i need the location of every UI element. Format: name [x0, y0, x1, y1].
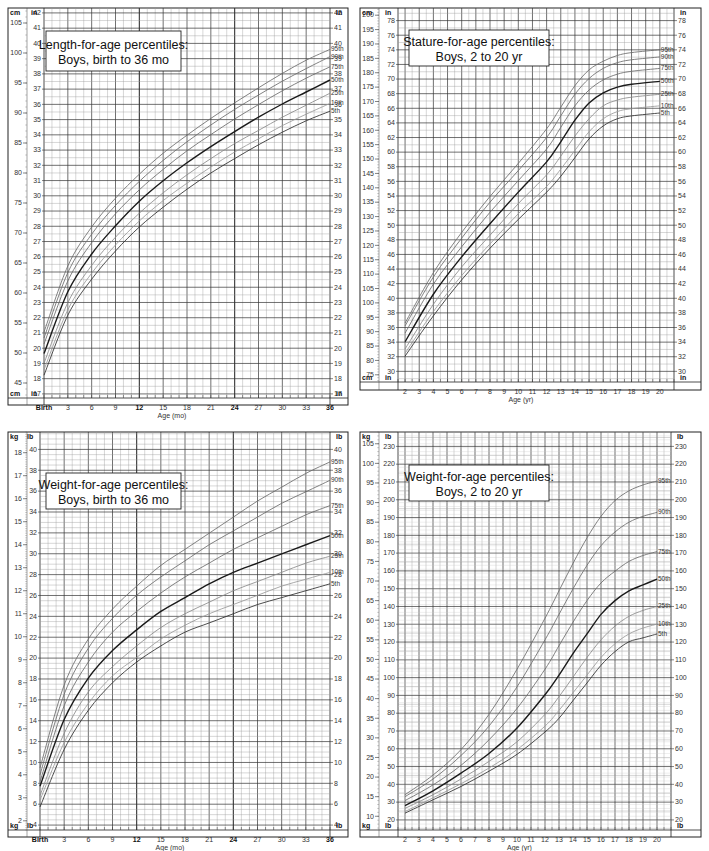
inner-tick-label: 60	[387, 745, 395, 752]
right-tick-label: 160	[675, 567, 687, 574]
left-tick-label: 16	[14, 495, 22, 502]
inner-tick-label: 78	[387, 17, 395, 24]
inner-tick-label: 150	[383, 585, 395, 592]
left-tick-label: 105	[10, 19, 22, 26]
inner-tick-label: 8	[33, 780, 37, 787]
right-tick-label: 32	[678, 353, 686, 360]
right-tick-label: 72	[678, 61, 686, 68]
left-tick-label: 195	[362, 26, 374, 33]
inner-tick-label: 76	[387, 32, 395, 39]
x-tick-label: 12	[543, 388, 551, 395]
inner-tick-label: 90	[387, 692, 395, 699]
curve-label-25th: 25th	[658, 602, 671, 609]
inner-tick-label: 39	[33, 55, 41, 62]
inner-tick-label: 34	[29, 508, 37, 515]
inner-tick-label: 20	[29, 654, 37, 661]
x-tick-label: 10	[514, 388, 522, 395]
right-tick-label: 28	[334, 223, 342, 230]
right-tick-label: 23	[334, 299, 342, 306]
inner-unit-label: in	[385, 9, 391, 16]
x-tick-label: 12	[541, 836, 549, 843]
x-tick-label: 21	[205, 836, 213, 843]
left-tick-label: 60	[14, 289, 22, 296]
left-tick-label: 10	[14, 633, 22, 640]
x-tick-label: 27	[254, 836, 262, 843]
chart-title-line2: Boys, birth to 36 mo	[58, 493, 169, 507]
right-unit-label: lb	[677, 433, 683, 440]
left-unit-label-bottom: kg	[362, 822, 370, 830]
x-tick-label: 11	[529, 388, 536, 395]
inner-tick-label: 200	[383, 496, 395, 503]
left-tick-label: 5	[18, 748, 22, 755]
right-tick-label: 50	[675, 763, 683, 770]
left-tick-label: 100	[362, 299, 374, 306]
right-tick-label: 66	[678, 105, 686, 112]
right-tick-label: 190	[675, 514, 687, 521]
right-tick-label: 20	[334, 654, 342, 661]
right-tick-label: 120	[675, 638, 687, 645]
x-tick-label: 18	[181, 836, 189, 843]
inner-tick-label: 70	[387, 75, 395, 82]
inner-tick-label: 12	[29, 738, 37, 745]
x-tick-label: 18	[183, 404, 191, 411]
right-tick-label: 26	[334, 253, 342, 260]
right-tick-label: 230	[675, 443, 687, 450]
right-unit-label: in	[680, 9, 686, 16]
inner-tick-label: 46	[387, 251, 395, 258]
left-tick-label: 75	[14, 199, 22, 206]
curve-label-75th: 75th	[658, 548, 671, 555]
right-tick-label: 14	[334, 717, 342, 724]
x-tick-label: 18	[628, 388, 636, 395]
right-tick-label: 25	[334, 268, 342, 275]
x-tick-label: 33	[302, 836, 310, 843]
left-unit-label-bottom: cm	[362, 374, 372, 381]
right-tick-label: 33	[334, 146, 342, 153]
right-tick-label: 36	[678, 324, 686, 331]
left-tick-label: 18	[14, 449, 22, 456]
left-tick-label: 125	[362, 227, 374, 234]
inner-tick-label: 33	[33, 146, 41, 153]
right-unit-label: in	[336, 9, 342, 16]
inner-tick-label: 50	[387, 222, 395, 229]
x-tick-label: 3	[62, 836, 66, 843]
inner-tick-label: 52	[387, 207, 395, 214]
curve-label-5th: 5th	[331, 580, 340, 587]
right-tick-label: 220	[675, 460, 687, 467]
left-tick-label: 100	[362, 460, 374, 467]
inner-tick-label: 20	[33, 345, 41, 352]
right-tick-label: 27	[334, 238, 342, 245]
inner-tick-label: 35	[33, 116, 41, 123]
x-tick-label: 19	[639, 836, 647, 843]
left-tick-label: 12	[14, 587, 22, 594]
inner-tick-label: 40	[387, 295, 395, 302]
x-tick-label: 14	[569, 836, 577, 843]
x-tick-label: 10	[513, 836, 521, 843]
inner-tick-label: 10	[29, 759, 37, 766]
right-tick-label: 40	[334, 446, 342, 453]
left-tick-label: 75	[366, 558, 374, 565]
x-tick-label: 36	[326, 404, 334, 411]
inner-tick-label: 28	[29, 571, 37, 578]
left-unit-label: kg	[362, 433, 370, 441]
chart-title-line2: Boys, 2 to 20 yr	[436, 50, 523, 64]
inner-tick-label: 210	[383, 478, 395, 485]
right-tick-label: 60	[675, 745, 683, 752]
left-tick-label: 15	[14, 518, 22, 525]
x-axis-title: Age (yr)	[509, 396, 534, 404]
curve-label-25th: 25th	[661, 90, 674, 97]
inner-tick-label: 38	[29, 467, 37, 474]
inner-tick-label: 18	[33, 375, 41, 382]
inner-tick-label: 24	[33, 284, 41, 291]
curve-label-25th: 25th	[331, 552, 344, 559]
curve-label-5th: 5th	[658, 630, 667, 637]
inner-tick-label: 36	[29, 487, 37, 494]
inner-tick-label: 190	[383, 514, 395, 521]
curve-label-90th: 90th	[661, 53, 674, 60]
inner-tick-label: 74	[387, 46, 395, 53]
x-tick-label: 6	[90, 404, 94, 411]
inner-tick-label: 54	[387, 192, 395, 199]
left-tick-label: 95	[366, 479, 374, 486]
inner-tick-label: 38	[33, 70, 41, 77]
x-axis-title: Age (yr)	[507, 844, 532, 851]
inner-tick-label: 62	[387, 134, 395, 141]
